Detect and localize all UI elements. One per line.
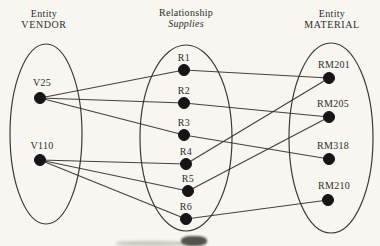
node-label-R5: R5 (182, 173, 194, 184)
er-occurrence-diagram: Entity VENDOR Relationship Supplies Enti… (0, 0, 380, 246)
node-label-V25: V25 (33, 77, 51, 88)
node-RM205 (324, 112, 335, 123)
edge-R2-RM205 (184, 103, 329, 117)
edge-V25-R2 (40, 98, 184, 103)
node-V110 (35, 155, 46, 166)
node-R4 (181, 159, 192, 170)
node-label-R2: R2 (178, 85, 190, 96)
node-label-R4: R4 (180, 146, 192, 157)
edge-V110-R6 (40, 160, 186, 219)
node-label-R3: R3 (178, 117, 190, 128)
node-RM210 (323, 195, 334, 206)
node-R1 (179, 65, 190, 76)
edge-V25-R1 (40, 70, 184, 98)
node-label-R1: R1 (178, 52, 190, 63)
edge-R5-RM205 (188, 117, 329, 191)
node-R6 (181, 214, 192, 225)
diagram-canvas: V25V110R1R2R3R4R5R6RM201RM205RM318RM210 (0, 0, 380, 246)
node-RM201 (324, 73, 335, 84)
edge-R4-RM201 (186, 78, 329, 164)
node-label-RM201: RM201 (318, 59, 350, 70)
cutoff-caption-smudge (116, 241, 184, 246)
edge-V110-R5 (40, 160, 188, 191)
edge-V25-R3 (40, 98, 184, 135)
node-RM318 (324, 154, 335, 165)
node-label-RM205: RM205 (317, 98, 349, 109)
edge-R1-RM201 (184, 70, 329, 78)
cutoff-caption-mark (181, 236, 207, 246)
vendor-ellipse (10, 44, 82, 224)
node-R2 (179, 98, 190, 109)
node-label-RM318: RM318 (317, 140, 349, 151)
edge-V110-R4 (40, 160, 186, 164)
node-V25 (35, 93, 46, 104)
node-R3 (179, 130, 190, 141)
node-label-V110: V110 (30, 140, 53, 151)
node-R5 (183, 186, 194, 197)
node-label-R6: R6 (180, 201, 192, 212)
node-label-RM210: RM210 (318, 180, 350, 191)
